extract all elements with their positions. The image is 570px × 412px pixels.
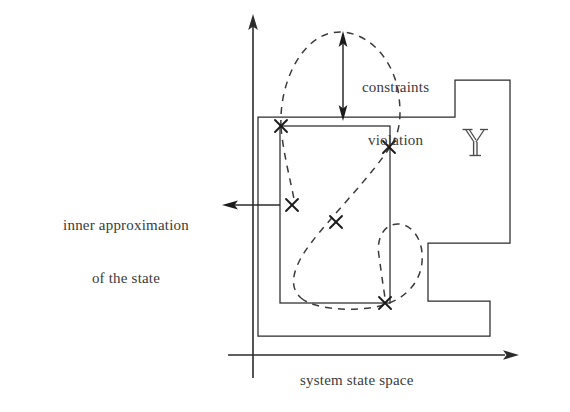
- dashed-left-strand: [281, 127, 294, 199]
- sample-marker-3: [286, 199, 298, 211]
- inner-approximation-label-line2: of the state: [28, 270, 224, 288]
- dashed-lower-loop: [301, 224, 422, 309]
- sample-marker-4: [330, 216, 342, 228]
- constraints-violation-label-line2: violation: [362, 132, 429, 150]
- x-axis-arrowhead: [503, 350, 519, 360]
- inner-approximation-label-line1: inner approximation: [28, 217, 224, 235]
- inner-approximation-arrow: [222, 200, 280, 209]
- admissible-set-symbol-Y: [463, 130, 489, 156]
- inner-approximation-label: inner approximation of the state: [28, 182, 224, 324]
- diagram-canvas: constraints violation inner approximatio…: [0, 0, 570, 412]
- constraints-violation-label-line1: constraints: [362, 79, 429, 97]
- constraints-violation-label: constraints violation: [362, 44, 429, 186]
- constraints-violation-arrow: [339, 31, 348, 121]
- system-state-space-label: system state space: [300, 372, 414, 390]
